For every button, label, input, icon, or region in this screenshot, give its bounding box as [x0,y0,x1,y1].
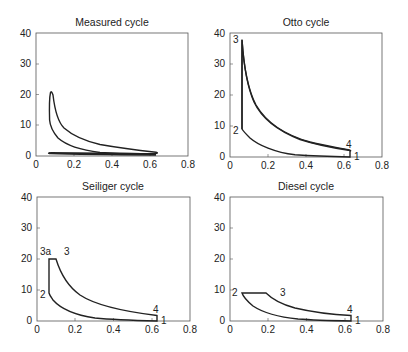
y-tick-labels: 0 10 20 30 40 [21,192,33,326]
svg-text:40: 40 [21,192,33,203]
label-point-2: 2 [233,125,239,136]
label-point-1: 1 [354,151,360,162]
label-point-2: 2 [232,287,238,298]
otto-curve [242,40,351,151]
label-point-3: 3 [280,287,286,298]
svg-text:10: 10 [21,284,33,295]
y-tick-labels: 0 10 20 30 40 [214,192,226,326]
svg-text:0.8: 0.8 [375,160,389,171]
panel-diesel-cycle: Diesel cycle 0 0.2 0.4 0.6 0.8 0 10 20 3… [214,180,391,335]
svg-text:0: 0 [25,150,31,161]
svg-text:0.8: 0.8 [183,324,197,335]
axes-box [37,197,190,321]
svg-text:0.4: 0.4 [105,159,119,170]
svg-text:0.4: 0.4 [300,324,314,335]
svg-text:20: 20 [214,253,226,264]
axes-box [230,197,383,321]
svg-text:0: 0 [227,160,233,171]
svg-text:20: 20 [214,89,226,100]
svg-text:10: 10 [20,119,32,130]
svg-text:0: 0 [34,324,40,335]
panel-title: Diesel cycle [278,180,334,192]
svg-text:20: 20 [20,89,32,100]
svg-text:0.6: 0.6 [145,324,159,335]
panel-title: Seiliger cycle [82,180,144,192]
svg-text:0.2: 0.2 [67,159,81,170]
svg-text:0: 0 [33,159,39,170]
svg-text:0.4: 0.4 [107,324,121,335]
svg-text:30: 30 [21,222,33,233]
svg-text:0: 0 [227,324,233,335]
tick-marks [37,228,152,321]
label-point-1: 1 [355,315,361,326]
axes-box [230,33,382,157]
svg-text:0.6: 0.6 [143,159,157,170]
panel-title: Otto cycle [283,16,330,28]
svg-text:30: 30 [214,222,226,233]
panel-measured-cycle: Measured cycle 0 0.2 0.4 0.6 0.8 0 10 20… [20,16,196,170]
svg-text:0: 0 [26,315,32,326]
x-tick-labels: 0 0.2 0.4 0.6 0.8 [227,324,390,335]
panel-title: Measured cycle [75,16,149,28]
svg-text:40: 40 [214,192,226,203]
svg-text:0: 0 [219,315,225,326]
diesel-cycle-path [242,293,351,321]
y-tick-labels: 0 10 20 30 40 [20,28,32,161]
label-point-2: 2 [40,289,46,300]
label-point-4: 4 [346,139,352,150]
svg-text:40: 40 [20,28,32,39]
label-point-3: 3 [233,34,239,45]
seiliger-cycle-path [49,259,157,321]
label-point-4: 4 [153,304,159,315]
svg-text:0.8: 0.8 [181,159,195,170]
svg-text:0.4: 0.4 [299,160,313,171]
svg-text:0.6: 0.6 [338,324,352,335]
measured-curve [49,92,157,154]
figure: Measured cycle 0 0.2 0.4 0.6 0.8 0 10 20… [0,0,408,352]
panel-seiliger-cycle: Seiliger cycle 0 0.2 0.4 0.6 0.8 0 10 20… [21,180,198,335]
svg-text:0: 0 [219,151,225,162]
svg-text:30: 30 [214,58,226,69]
measured-pumping-loop [49,153,156,155]
otto-cycle-path [242,40,350,158]
svg-text:0.2: 0.2 [261,324,275,335]
axes-box [36,33,188,156]
x-tick-labels: 0 0.2 0.4 0.6 0.8 [34,324,197,335]
label-point-3a: 3a [40,246,52,257]
svg-text:0.8: 0.8 [376,324,390,335]
label-point-4: 4 [347,304,353,315]
y-tick-labels: 0 10 20 30 40 [214,28,226,162]
svg-text:0.2: 0.2 [68,324,82,335]
svg-text:10: 10 [214,120,226,131]
svg-text:0.6: 0.6 [337,160,351,171]
label-point-3: 3 [64,246,70,257]
tick-marks [230,228,345,321]
panel-otto-cycle: Otto cycle 0 0.2 0.4 0.6 0.8 0 10 20 30 … [214,16,390,171]
x-tick-labels: 0 0.2 0.4 0.6 0.8 [227,160,389,171]
label-point-1: 1 [161,315,167,326]
x-tick-labels: 0 0.2 0.4 0.6 0.8 [33,159,195,170]
svg-text:40: 40 [214,28,226,39]
svg-text:0.2: 0.2 [261,160,275,171]
svg-text:20: 20 [21,253,33,264]
svg-text:30: 30 [20,58,32,69]
svg-text:10: 10 [214,284,226,295]
